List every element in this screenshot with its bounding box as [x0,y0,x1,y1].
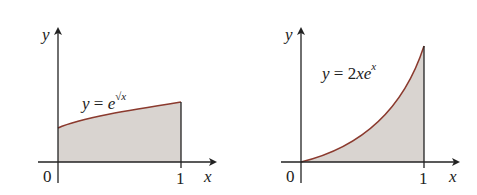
x-tick-1: 1 [419,170,428,187]
y-axis-label: y [42,26,50,43]
figure [0,0,477,195]
equation-label: y = e√x [82,93,126,112]
x-axis-label: x [204,168,212,185]
x-axis-label: x [449,168,457,185]
chart-left [38,29,215,183]
y-axis-label: y [285,26,293,43]
equation-label: y = 2xex [322,63,376,82]
x-tick-1: 1 [176,170,185,187]
x-tick-0: 0 [286,168,295,185]
x-tick-0: 0 [43,168,52,185]
chart-right [281,29,458,183]
